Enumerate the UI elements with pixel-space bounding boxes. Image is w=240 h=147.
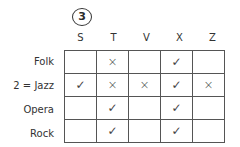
column-header-v: V — [130, 32, 163, 43]
column-header-x: X — [163, 32, 196, 43]
grid-cell[interactable]: ✓ — [161, 51, 193, 74]
grid-cell[interactable] — [193, 120, 225, 143]
grid-cell[interactable] — [129, 120, 161, 143]
column-header-t: T — [97, 32, 130, 43]
grid-row-opera: ✓ ✓ — [65, 97, 225, 120]
logic-grid: × ✓ ✓ × × ✓ × ✓ ✓ ✓ ✓ — [64, 50, 225, 143]
grid-row-rock: ✓ ✓ — [65, 120, 225, 143]
grid-cell[interactable]: × — [129, 74, 161, 97]
grid-cell[interactable] — [65, 51, 97, 74]
row-label-jazz: 2 = Jazz — [13, 80, 54, 91]
grid-cell[interactable]: ✓ — [161, 74, 193, 97]
grid-cell[interactable]: ✓ — [161, 120, 193, 143]
grid-cell[interactable] — [193, 51, 225, 74]
row-label-opera: Opera — [23, 104, 54, 115]
grid-cell[interactable]: ✓ — [65, 74, 97, 97]
row-label-folk: Folk — [34, 56, 54, 67]
grid-row-folk: × ✓ — [65, 51, 225, 74]
puzzle-number-badge: 3 — [72, 8, 92, 26]
grid-cell[interactable] — [65, 97, 97, 120]
grid-cell[interactable]: ✓ — [97, 120, 129, 143]
grid-cell[interactable] — [65, 120, 97, 143]
grid-row-jazz: ✓ × × ✓ × — [65, 74, 225, 97]
column-header-z: Z — [196, 32, 229, 43]
grid-cell[interactable] — [129, 97, 161, 120]
grid-cell[interactable] — [129, 51, 161, 74]
grid-cell[interactable]: × — [97, 51, 129, 74]
grid-cell[interactable]: × — [193, 74, 225, 97]
grid-cell[interactable] — [193, 97, 225, 120]
grid-cell[interactable]: × — [97, 74, 129, 97]
grid-cell[interactable]: ✓ — [97, 97, 129, 120]
grid-cell[interactable]: ✓ — [161, 97, 193, 120]
column-header-s: S — [64, 32, 97, 43]
row-label-rock: Rock — [30, 128, 54, 139]
